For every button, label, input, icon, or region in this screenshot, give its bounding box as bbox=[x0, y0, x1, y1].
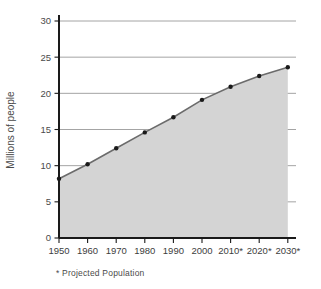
data-point-marker bbox=[85, 162, 89, 166]
y-axis-title: Millions of people bbox=[5, 91, 16, 169]
footnote-projected-population: * Projected Population bbox=[56, 268, 145, 278]
data-point-marker bbox=[114, 146, 118, 150]
x-axis-tick-label: 2000 bbox=[191, 245, 212, 256]
x-axis-tick-label: 1950 bbox=[48, 245, 69, 256]
x-axis-tick-label: 1990 bbox=[163, 245, 184, 256]
population-area-chart-figure: 051015202530 195019601970198019902000201… bbox=[0, 0, 321, 289]
x-axis-tick-label: 1970 bbox=[106, 245, 127, 256]
y-axis-tick-label: 0 bbox=[46, 232, 51, 243]
x-axis-tick-label: 2020* bbox=[247, 245, 272, 256]
chart-canvas: 051015202530 195019601970198019902000201… bbox=[0, 0, 321, 289]
y-axis-tick-label: 30 bbox=[40, 15, 51, 26]
data-point-marker bbox=[143, 130, 147, 134]
x-axis-ticks: 1950196019701980199020002010*2020*2030* bbox=[48, 238, 300, 256]
data-point-marker bbox=[228, 85, 232, 89]
x-axis-tick-label: 2010* bbox=[218, 245, 243, 256]
data-point-marker bbox=[200, 98, 204, 102]
data-point-marker bbox=[171, 115, 175, 119]
data-point-marker bbox=[286, 65, 290, 69]
x-axis-tick-label: 1960 bbox=[77, 245, 98, 256]
x-axis-tick-label: 1980 bbox=[134, 245, 155, 256]
y-axis-tick-label: 20 bbox=[40, 88, 51, 99]
y-axis-tick-label: 15 bbox=[40, 124, 51, 135]
x-axis-tick-label: 2030* bbox=[275, 245, 300, 256]
y-axis-tick-label: 25 bbox=[40, 52, 51, 63]
y-axis-tick-label: 10 bbox=[40, 160, 51, 171]
y-axis-ticks: 051015202530 bbox=[40, 15, 59, 243]
data-point-marker bbox=[257, 74, 261, 78]
y-axis-tick-label: 5 bbox=[46, 196, 51, 207]
